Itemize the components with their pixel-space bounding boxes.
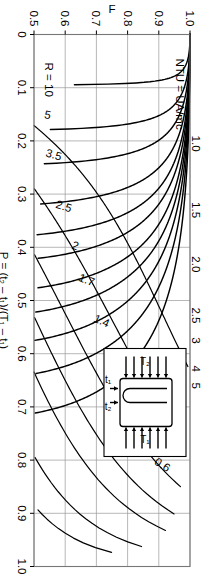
r-curve-label: R = 10 bbox=[43, 62, 55, 96]
r-curve-label: 0.6 bbox=[153, 455, 173, 474]
r-curve bbox=[44, 34, 190, 163]
y-axis-title: F bbox=[108, 2, 115, 14]
ntu-tick-label: 2.5 bbox=[190, 307, 202, 323]
inset-label-t1: t₁ bbox=[105, 373, 112, 384]
y-tick-label: 0.8 bbox=[122, 10, 134, 26]
ntu-axis-title: NTU = UA/mc bbox=[174, 58, 186, 129]
x-tick-label: 0.8 bbox=[16, 452, 28, 468]
ntu-tick-label: 2.0 bbox=[190, 256, 202, 272]
heat-exchanger-inset: T₂T₁t₁t₂ bbox=[104, 348, 186, 456]
y-tick-label: 0.7 bbox=[90, 10, 102, 26]
r-curve-label: 5 bbox=[43, 108, 52, 121]
x-tick-label: 0.5 bbox=[16, 292, 28, 308]
x-tick-label: 0.2 bbox=[16, 132, 28, 148]
ntu-tick-label: 4 bbox=[190, 365, 202, 372]
x-tick-label: 1.0 bbox=[16, 558, 28, 574]
chart-canvas: 00.10.20.30.40.50.60.70.80.91.0P = (t₂ –… bbox=[0, 0, 202, 583]
x-tick-label: 0.4 bbox=[16, 239, 28, 256]
x-axis-title: P = (t₂ – t₁)/(T₁ – t₁) bbox=[0, 251, 10, 349]
r-curve bbox=[50, 34, 190, 129]
y-tick-label: 1.0 bbox=[184, 10, 196, 26]
lmtd-correction-factor-chart: 00.10.20.30.40.50.60.70.80.91.0P = (t₂ –… bbox=[0, 0, 202, 583]
ntu-curve bbox=[38, 509, 112, 552]
y-tick-label: 0.5 bbox=[28, 10, 40, 26]
x-tick-label: 0.1 bbox=[16, 79, 28, 95]
x-tick-label: 0 bbox=[16, 31, 28, 37]
ntu-curve bbox=[35, 457, 141, 546]
r-curve-label: 3.5 bbox=[44, 146, 63, 162]
x-tick-label: 0.6 bbox=[16, 345, 28, 361]
inset-label-T2: T₂ bbox=[140, 355, 150, 366]
x-tick-label: 0.7 bbox=[16, 398, 28, 414]
ntu-tick-label: 1.5 bbox=[190, 202, 202, 218]
r-curve bbox=[36, 34, 190, 312]
inset-label-t2: t₂ bbox=[105, 400, 112, 411]
ntu-tick-label: 1.0 bbox=[190, 135, 202, 151]
r-curve bbox=[38, 34, 190, 287]
inset-label-T1: T₁ bbox=[140, 433, 150, 444]
r-curve bbox=[35, 34, 190, 340]
y-tick-label: 0.6 bbox=[59, 10, 71, 26]
r-curve-label: 2 bbox=[70, 238, 80, 251]
x-tick-label: 0.3 bbox=[16, 186, 28, 202]
ntu-tick-label: 5 bbox=[190, 382, 202, 388]
y-tick-label: 0.9 bbox=[153, 10, 165, 26]
r-curve bbox=[41, 34, 190, 203]
r-curve-label: 2.5 bbox=[54, 198, 73, 214]
x-tick-label: 0.9 bbox=[16, 505, 28, 521]
r-curve bbox=[74, 34, 190, 84]
ntu-tick-label: 3 bbox=[190, 337, 202, 343]
chart-figure: 00.10.20.30.40.50.60.70.80.91.0P = (t₂ –… bbox=[0, 0, 202, 583]
